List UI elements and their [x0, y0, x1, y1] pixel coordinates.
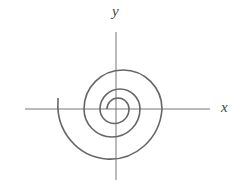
spiral-diagram	[0, 0, 233, 180]
spiral-curve	[58, 70, 162, 159]
x-axis-label: x	[221, 99, 228, 116]
y-axis-label: y	[112, 3, 119, 20]
